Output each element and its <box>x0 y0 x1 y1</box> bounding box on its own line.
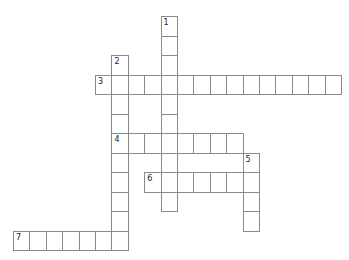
crossword-cell[interactable] <box>46 231 63 252</box>
crossword-cell[interactable] <box>161 75 178 96</box>
crossword-cell[interactable] <box>128 133 145 154</box>
crossword-cell[interactable]: 4 <box>111 133 128 154</box>
crossword-cell[interactable] <box>111 153 128 174</box>
crossword-cell[interactable] <box>210 133 227 154</box>
crossword-cell[interactable] <box>308 75 325 96</box>
crossword-cell[interactable] <box>210 75 227 96</box>
crossword-cell[interactable] <box>292 75 309 96</box>
crossword-cell[interactable] <box>275 75 292 96</box>
crossword-cell[interactable] <box>128 75 145 96</box>
crossword-cell[interactable] <box>226 75 243 96</box>
crossword-cell[interactable] <box>243 192 260 213</box>
crossword-cell[interactable] <box>111 94 128 115</box>
crossword-cell[interactable] <box>243 75 260 96</box>
clue-number: 6 <box>147 174 152 183</box>
crossword-cell[interactable] <box>161 153 178 174</box>
crossword-cell[interactable] <box>325 75 342 96</box>
crossword-cell[interactable] <box>193 172 210 193</box>
crossword-cell[interactable] <box>111 231 128 252</box>
crossword-cell[interactable] <box>226 172 243 193</box>
clue-number: 7 <box>16 233 21 242</box>
crossword-cell[interactable] <box>111 192 128 213</box>
crossword-cell[interactable]: 2 <box>111 55 128 76</box>
crossword-cell[interactable] <box>177 133 194 154</box>
crossword-cell[interactable] <box>161 114 178 135</box>
crossword-cell[interactable]: 5 <box>243 153 260 174</box>
clue-number: 1 <box>164 18 169 27</box>
crossword-cell[interactable] <box>95 231 112 252</box>
crossword-cell[interactable] <box>193 75 210 96</box>
crossword-cell[interactable] <box>259 75 276 96</box>
clue-number: 4 <box>114 135 119 144</box>
crossword-cell[interactable] <box>161 192 178 213</box>
crossword-cell[interactable] <box>243 211 260 232</box>
crossword-cell[interactable] <box>226 133 243 154</box>
crossword-cell[interactable] <box>111 172 128 193</box>
crossword-cell[interactable] <box>144 75 161 96</box>
crossword-cell[interactable] <box>161 55 178 76</box>
crossword-cell[interactable] <box>177 75 194 96</box>
crossword-cell[interactable] <box>243 172 260 193</box>
crossword-cell[interactable] <box>62 231 79 252</box>
crossword-cell[interactable]: 7 <box>13 231 30 252</box>
clue-number: 5 <box>246 155 251 164</box>
clue-number: 3 <box>98 77 103 86</box>
crossword-cell[interactable] <box>144 133 161 154</box>
crossword-cell[interactable] <box>161 36 178 57</box>
crossword-cell[interactable]: 6 <box>144 172 161 193</box>
crossword-cell[interactable] <box>161 172 178 193</box>
crossword-cell[interactable] <box>111 211 128 232</box>
crossword-grid: 1243567 <box>0 0 349 260</box>
crossword-cell[interactable] <box>210 172 227 193</box>
crossword-cell[interactable]: 3 <box>95 75 112 96</box>
crossword-cell[interactable] <box>177 172 194 193</box>
crossword-cell[interactable] <box>193 133 210 154</box>
crossword-cell[interactable] <box>79 231 96 252</box>
crossword-cell[interactable] <box>161 94 178 115</box>
crossword-cell[interactable] <box>111 75 128 96</box>
crossword-cell[interactable] <box>29 231 46 252</box>
crossword-cell[interactable] <box>161 133 178 154</box>
crossword-cell[interactable]: 1 <box>161 16 178 37</box>
crossword-cell[interactable] <box>111 114 128 135</box>
clue-number: 2 <box>114 57 119 66</box>
